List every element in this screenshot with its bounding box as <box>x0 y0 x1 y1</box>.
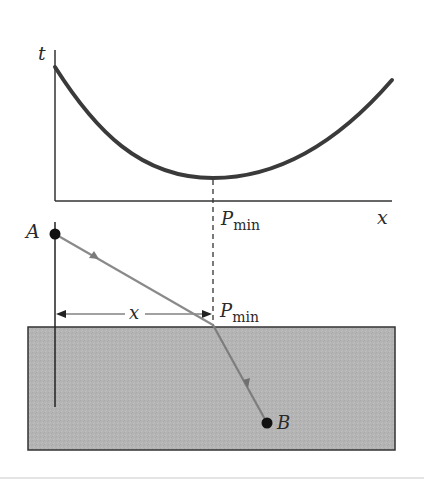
fermat-principle-diagram: t x Pmin x A B Pmin <box>0 0 424 480</box>
point-a <box>50 229 61 240</box>
second-medium <box>28 327 395 450</box>
point-b-label: B <box>276 412 290 433</box>
time-curve <box>55 67 392 178</box>
point-b <box>262 418 273 429</box>
time-graph: t x Pmin <box>38 42 392 233</box>
graph-pmin-label: Pmin <box>220 208 260 233</box>
x-axis-label: x <box>377 206 388 228</box>
optical-setup: x A B Pmin <box>24 220 395 450</box>
distance-x-label: x <box>129 302 139 323</box>
interface-pmin-label: Pmin <box>219 300 259 325</box>
point-a-label: A <box>24 220 40 242</box>
distance-x-dimension: x <box>56 302 212 323</box>
bottom-divider <box>0 477 424 479</box>
arrowhead-left-icon <box>56 310 66 318</box>
t-axis-label: t <box>38 42 46 64</box>
arrowhead-right-icon <box>202 310 212 318</box>
